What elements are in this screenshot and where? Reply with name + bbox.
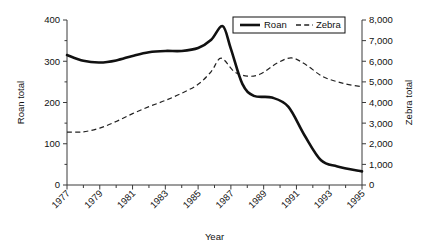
chart-legend: RoanZebra [233, 17, 345, 33]
y2-axis-tick-label: 2,000 [369, 138, 393, 149]
x-axis-tick-label: 1993 [311, 188, 334, 211]
x-axis-tick-label: 1989 [246, 188, 269, 211]
x-axis-tick-label: 1995 [344, 188, 367, 211]
x-axis-tick-label: 1987 [213, 188, 236, 211]
y2-axis-title: Zebra total [403, 80, 414, 125]
y2-axis-tick-label: 1,000 [369, 159, 393, 170]
y2-axis-tick-label: 8,000 [369, 14, 393, 25]
y-axis-tick-label: 400 [44, 14, 60, 25]
y2-axis-tick-label: 4,000 [369, 97, 393, 108]
y2-axis-tick-label: 5,000 [369, 76, 393, 87]
x-axis-tick-label: 1979 [82, 188, 105, 211]
series-line-zebra [67, 58, 362, 132]
x-axis-title: Year [205, 231, 224, 242]
x-axis-tick-label: 1983 [148, 188, 171, 211]
roan-zebra-line-chart: 010020030040001,0002,0003,0004,0005,0006… [0, 0, 432, 252]
y2-axis-tick-label: 3,000 [369, 118, 393, 129]
y-axis-tick-label: 100 [44, 138, 60, 149]
y-axis-title: Roan total [15, 81, 26, 124]
y2-axis-tick-label: 6,000 [369, 56, 393, 67]
x-axis-tick-label: 1977 [49, 188, 72, 211]
y2-axis-tick-label: 0 [369, 179, 374, 190]
x-axis-tick-label: 1985 [180, 188, 203, 211]
x-axis-tick-label: 1991 [279, 188, 302, 211]
plot-area: 010020030040001,0002,0003,0004,0005,0006… [15, 14, 414, 242]
legend-label-roan: Roan [264, 19, 287, 30]
x-axis-tick-label: 1981 [115, 188, 138, 211]
legend-label-zebra: Zebra [316, 19, 342, 30]
series-line-roan [67, 26, 362, 171]
y2-axis-tick-label: 7,000 [369, 35, 393, 46]
chart-container: 010020030040001,0002,0003,0004,0005,0006… [0, 0, 432, 252]
y-axis-tick-label: 300 [44, 56, 60, 67]
y-axis-tick-label: 0 [55, 179, 60, 190]
y-axis-tick-label: 200 [44, 97, 60, 108]
